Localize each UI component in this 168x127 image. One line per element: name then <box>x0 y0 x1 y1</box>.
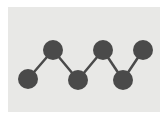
graph-node <box>68 70 88 90</box>
zigzag-node-graph <box>0 0 168 127</box>
screenshot-root <box>0 0 168 127</box>
graph-node <box>133 40 153 60</box>
graph-node <box>113 70 133 90</box>
graph-node <box>93 40 113 60</box>
graph-node <box>18 69 38 89</box>
graph-node <box>43 40 63 60</box>
